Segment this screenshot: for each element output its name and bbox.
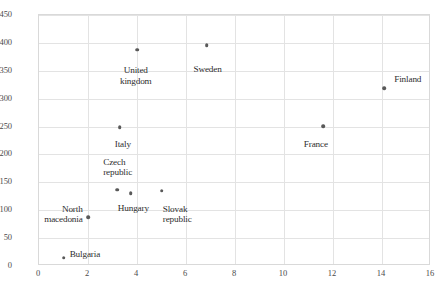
- x-axis-tick-label: 8: [219, 269, 249, 278]
- scatter-chart: BulgariaNorth macedoniaCzech republicHun…: [0, 0, 446, 296]
- gridline-horizontal: [39, 182, 429, 183]
- data-point: [160, 189, 164, 193]
- x-axis-tick-label: 16: [415, 269, 445, 278]
- x-axis-tick-label: 0: [23, 269, 53, 278]
- gridline-horizontal: [39, 15, 429, 16]
- y-axis-tick-label: 350: [0, 66, 12, 75]
- data-point-label: Sweden: [193, 64, 221, 75]
- gridline-horizontal: [39, 43, 429, 44]
- gridline-vertical: [88, 15, 89, 264]
- data-point-label: Czech republic: [103, 157, 132, 178]
- data-point-label: Hungary: [118, 203, 149, 214]
- data-point: [129, 191, 133, 195]
- plot-area: BulgariaNorth macedoniaCzech republicHun…: [38, 14, 430, 265]
- gridline-horizontal: [39, 238, 429, 239]
- data-point: [116, 188, 120, 192]
- y-axis-tick-label: 250: [0, 121, 12, 130]
- data-point: [321, 124, 325, 128]
- data-point: [383, 86, 387, 90]
- data-point-label: Bulgaria: [70, 249, 100, 260]
- gridline-horizontal: [39, 127, 429, 128]
- data-point: [118, 125, 122, 129]
- x-axis-tick-label: 6: [170, 269, 200, 278]
- gridline-vertical: [382, 15, 383, 264]
- data-point-label: North macedonia: [44, 204, 82, 225]
- data-point: [135, 48, 139, 52]
- gridline-vertical: [186, 15, 187, 264]
- y-axis-tick-label: 450: [0, 10, 12, 19]
- y-axis-tick-label: 0: [0, 261, 12, 270]
- y-axis-tick-label: 100: [0, 205, 12, 214]
- data-point-label: United kingdom: [120, 65, 152, 86]
- data-point-label: France: [304, 139, 328, 150]
- x-axis-tick-label: 12: [317, 269, 347, 278]
- gridline-horizontal: [39, 71, 429, 72]
- gridline-horizontal: [39, 154, 429, 155]
- gridline-vertical: [284, 15, 285, 264]
- gridline-vertical: [333, 15, 334, 264]
- y-axis-tick-label: 50: [0, 233, 12, 242]
- y-axis-tick-label: 150: [0, 177, 12, 186]
- x-axis-tick-label: 14: [366, 269, 396, 278]
- data-point: [205, 43, 209, 47]
- gridline-vertical: [137, 15, 138, 264]
- x-axis-tick-label: 10: [268, 269, 298, 278]
- data-point: [62, 256, 66, 260]
- x-axis-tick-label: 4: [121, 269, 151, 278]
- y-axis-tick-label: 300: [0, 93, 12, 102]
- gridline-horizontal: [39, 210, 429, 211]
- data-point-label: Slovak republic: [163, 204, 192, 225]
- gridline-vertical: [235, 15, 236, 264]
- y-axis-tick-label: 400: [0, 38, 12, 47]
- data-point-label: Italy: [115, 139, 131, 150]
- data-point: [86, 215, 90, 219]
- gridline-horizontal: [39, 99, 429, 100]
- data-point-label: Finland: [394, 74, 421, 85]
- x-axis-tick-label: 2: [72, 269, 102, 278]
- y-axis-tick-label: 200: [0, 149, 12, 158]
